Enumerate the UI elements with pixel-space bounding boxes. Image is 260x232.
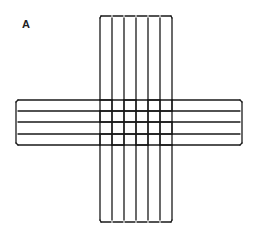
- weave-diagram: [0, 0, 260, 232]
- corner: [171, 16, 172, 18]
- corner: [240, 100, 242, 102]
- corner: [100, 16, 101, 18]
- corner: [171, 220, 172, 222]
- corner: [16, 143, 18, 145]
- corner: [100, 220, 101, 222]
- corner: [240, 143, 242, 145]
- corner: [16, 100, 18, 102]
